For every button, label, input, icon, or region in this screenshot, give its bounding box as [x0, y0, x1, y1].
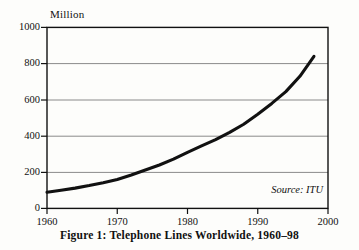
y-tick-label-1000: 1000: [0, 22, 40, 33]
y-tick-label-0: 0: [0, 203, 40, 214]
figure-caption: Figure 1: Telephone Lines Worldwide, 196…: [0, 229, 359, 241]
source-annotation: Source: ITU: [271, 184, 323, 195]
x-tick-label-2000: 2000: [306, 217, 350, 228]
x-tick-label-1960: 1960: [25, 217, 69, 228]
x-tick-label-1980: 1980: [166, 217, 210, 228]
y-tick-label-400: 400: [0, 131, 40, 142]
line-chart: [0, 0, 359, 250]
y-tick-label-200: 200: [0, 167, 40, 178]
x-tick-label-1990: 1990: [236, 217, 280, 228]
y-tick-label-800: 800: [0, 58, 40, 69]
x-axis-ticks: [47, 208, 328, 214]
y-tick-label-600: 600: [0, 95, 40, 106]
y-axis-unit-label: Million: [50, 8, 84, 20]
plot-border: [47, 27, 328, 208]
y-axis-ticks: [41, 27, 47, 208]
x-tick-label-1970: 1970: [95, 217, 139, 228]
gridlines: [47, 64, 328, 173]
plot-frame: [47, 27, 328, 208]
figure-container: Million 0 200 400 600 800 1000 1960 1970…: [0, 0, 359, 250]
